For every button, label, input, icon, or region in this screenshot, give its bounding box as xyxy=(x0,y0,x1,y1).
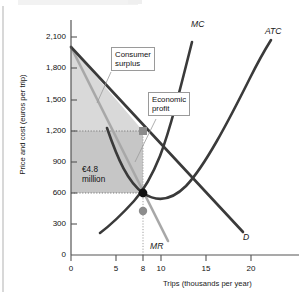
economic-profit-callout-line2: profit xyxy=(152,104,186,113)
curve-label-mc: MC xyxy=(191,19,204,29)
y-tick-label-900: 900 xyxy=(18,157,66,166)
curve-label-d: D xyxy=(243,232,249,242)
y-tick-label-300: 300 xyxy=(18,219,66,228)
consumer-surplus-callout-line2: surplus xyxy=(115,59,151,68)
x-tick-label-5: 5 xyxy=(106,264,126,273)
y-tick-label-1200: 1,200 xyxy=(18,126,66,135)
x-tick-label-10: 10 xyxy=(151,264,171,273)
marginal-revenue-point-marker xyxy=(139,207,147,215)
x-axis-title: Trips (thousands per year) xyxy=(163,279,252,288)
y-axis-title: Price and cost (euros per trip) xyxy=(18,65,27,185)
y-tick-label-1500: 1,500 xyxy=(18,95,66,104)
profit-value-label: €4.8 million xyxy=(82,165,105,184)
y-tick-label-2100: 2,100 xyxy=(18,32,66,41)
consumer-surplus-callout: Consumer surplus xyxy=(111,47,155,71)
curve-label-atc: ATC xyxy=(265,26,282,36)
x-tick-label-15: 15 xyxy=(196,264,216,273)
x-tick-label-20: 20 xyxy=(241,264,261,273)
curve-label-mr: MR xyxy=(150,241,163,251)
y-tick-label-1800: 1,800 xyxy=(18,63,66,72)
chart-figure: Price and cost (euros per trip) Trips (t… xyxy=(0,0,307,296)
price-point-marker xyxy=(139,127,147,135)
profit-value-line2: million xyxy=(82,175,105,185)
economic-profit-callout: Economic profit xyxy=(148,92,190,116)
average-cost-point-marker xyxy=(139,189,148,198)
consumer-surplus-callout-line1: Consumer xyxy=(115,50,151,59)
profit-value-line1: €4.8 xyxy=(82,165,105,175)
x-tick-label-8: 8 xyxy=(133,264,153,273)
y-tick-label-600: 600 xyxy=(18,188,66,197)
x-axis-ticks xyxy=(71,255,251,261)
x-tick-label-0: 0 xyxy=(61,264,81,273)
economic-profit-callout-line1: Economic xyxy=(152,95,186,104)
y-tick-label-0: 0 xyxy=(18,250,66,259)
